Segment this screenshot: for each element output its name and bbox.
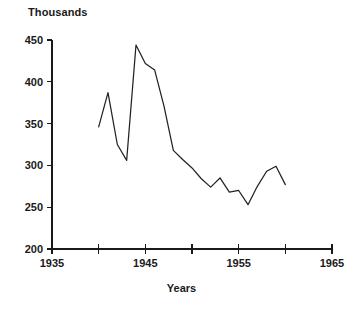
tick-marks — [47, 40, 332, 254]
y-tick-label: 200 — [25, 243, 43, 255]
x-tick-labels: 1935194519551965 — [40, 257, 344, 269]
line-chart: Thousands 200250300350400450 19351945195… — [0, 0, 363, 312]
y-tick-label: 300 — [25, 159, 43, 171]
y-tick-label: 350 — [25, 118, 43, 130]
y-tick-label: 250 — [25, 201, 43, 213]
y-tick-label: 450 — [25, 34, 43, 46]
y-tick-labels: 200250300350400450 — [25, 34, 43, 255]
x-tick-label: 1955 — [226, 257, 250, 269]
x-tick-label: 1965 — [320, 257, 344, 269]
chart-plot-area: 200250300350400450 1935194519551965 — [0, 0, 363, 312]
axes — [52, 40, 332, 249]
y-tick-label: 400 — [25, 76, 43, 88]
series-line — [99, 45, 286, 205]
x-tick-label: 1935 — [40, 257, 64, 269]
x-axis-title: Years — [0, 282, 363, 294]
x-tick-label: 1945 — [133, 257, 157, 269]
data-series — [99, 45, 286, 205]
